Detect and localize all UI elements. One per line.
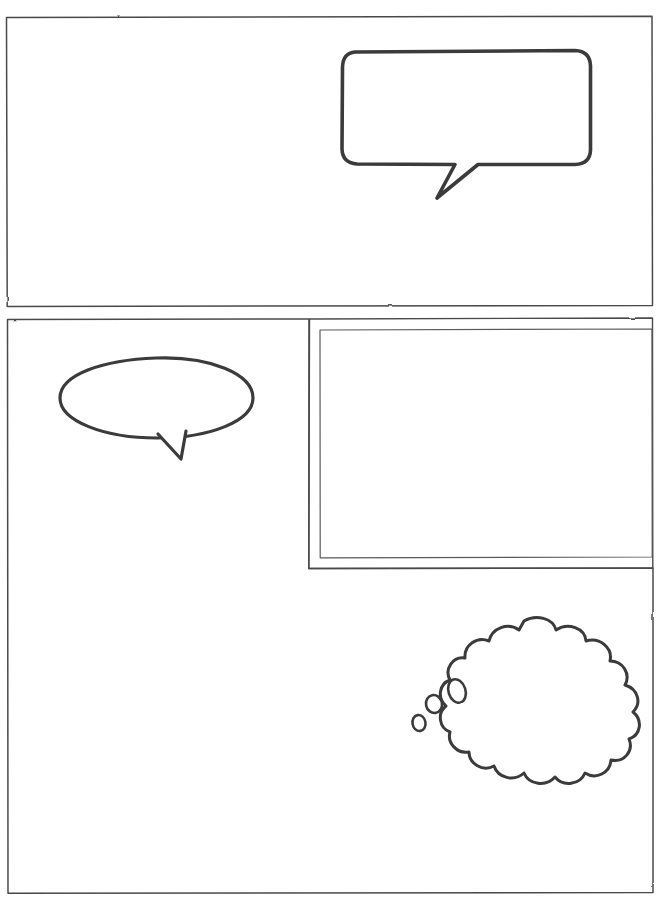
comic-page — [0, 0, 663, 898]
speech-bubble-rounded-rect-hit[interactable] — [342, 52, 591, 199]
thought-bubble-cloud-hit[interactable] — [410, 614, 643, 784]
speech-bubble-oval-hit[interactable] — [60, 356, 254, 460]
panel-3[interactable] — [319, 319, 652, 568]
